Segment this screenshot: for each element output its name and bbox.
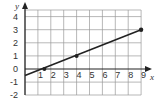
svg-text:3: 3 <box>64 70 69 80</box>
svg-text:8: 8 <box>128 70 133 80</box>
svg-text:9: 9 <box>141 70 146 80</box>
svg-text:6: 6 <box>102 70 107 80</box>
data-line <box>25 28 143 76</box>
x-tick-labels: 1 2 3 4 5 6 7 8 9 <box>38 70 146 80</box>
svg-text:3: 3 <box>13 25 18 35</box>
svg-text:4: 4 <box>13 12 18 22</box>
axes <box>25 4 150 95</box>
svg-text:-1: -1 <box>10 77 18 87</box>
svg-text:2: 2 <box>13 38 18 48</box>
svg-text:4: 4 <box>77 70 82 80</box>
svg-text:7: 7 <box>115 70 120 80</box>
svg-text:0: 0 <box>13 64 18 74</box>
svg-text:2: 2 <box>51 70 56 80</box>
svg-text:1: 1 <box>13 51 18 61</box>
line-chart: y x 4 3 2 1 0 -1 -2 1 2 3 4 5 6 7 8 9 <box>0 0 156 106</box>
y-axis-label: y <box>14 1 19 11</box>
svg-text:-2: -2 <box>10 90 18 100</box>
data-point <box>139 28 143 32</box>
svg-text:5: 5 <box>89 70 94 80</box>
svg-text:1: 1 <box>38 70 43 80</box>
y-axis-arrow-icon <box>22 2 28 9</box>
x-axis-label: x <box>149 72 154 82</box>
data-point <box>75 54 79 58</box>
y-tick-labels: 4 3 2 1 0 -1 -2 <box>10 12 18 100</box>
data-point <box>42 67 46 71</box>
